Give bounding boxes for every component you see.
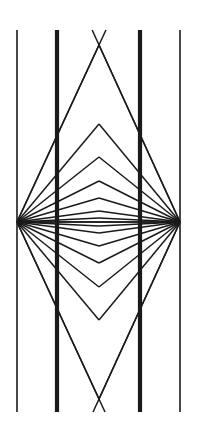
illusion-figure-canvas (0, 0, 199, 432)
illusion-figure-svg (0, 0, 199, 432)
